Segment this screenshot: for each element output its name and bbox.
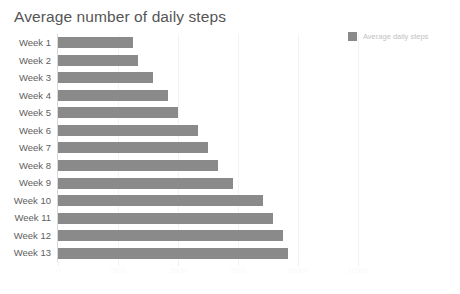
bar bbox=[58, 160, 218, 171]
bar-row: Week 4 bbox=[58, 87, 448, 105]
x-tick-label: 2500 bbox=[110, 266, 127, 275]
y-axis-category-label: Week 13 bbox=[14, 248, 51, 258]
bar-row: Week 9 bbox=[58, 174, 448, 192]
bar-row: Week 2 bbox=[58, 52, 448, 70]
y-axis-category-label: Week 1 bbox=[19, 38, 51, 48]
y-axis-category-label: Week 2 bbox=[19, 56, 51, 66]
bar bbox=[58, 142, 208, 153]
bar bbox=[58, 125, 198, 136]
y-axis-category-label: Week 8 bbox=[19, 161, 51, 171]
y-axis-category-label: Week 5 bbox=[19, 108, 51, 118]
bar bbox=[58, 107, 178, 118]
bar bbox=[58, 72, 153, 83]
bar-row: Week 7 bbox=[58, 139, 448, 157]
bar-row: Week 10 bbox=[58, 192, 448, 210]
bar bbox=[58, 195, 263, 206]
x-tick-label: 12500 bbox=[348, 266, 369, 275]
bar-row: Week 6 bbox=[58, 122, 448, 140]
chart-title: Average number of daily steps bbox=[14, 8, 226, 26]
x-tick-label: 10000 bbox=[288, 266, 309, 275]
y-axis-category-label: Week 3 bbox=[19, 73, 51, 83]
x-tick-label: 5000 bbox=[170, 266, 187, 275]
bar-row: Week 5 bbox=[58, 104, 448, 122]
bar-row: Week 13 bbox=[58, 244, 448, 262]
x-tick-label: 0 bbox=[56, 266, 60, 275]
plot-area: Week 1Week 2Week 3Week 4Week 5Week 6Week… bbox=[58, 34, 448, 262]
y-axis-category-label: Week 9 bbox=[19, 178, 51, 188]
y-axis-category-label: Week 10 bbox=[14, 196, 51, 206]
bar-row: Week 8 bbox=[58, 157, 448, 175]
bar bbox=[58, 178, 233, 189]
y-axis-category-label: Week 11 bbox=[14, 213, 51, 223]
bar-series: Week 1Week 2Week 3Week 4Week 5Week 6Week… bbox=[58, 34, 448, 262]
bar bbox=[58, 55, 138, 66]
bar-row: Week 3 bbox=[58, 69, 448, 87]
y-axis-category-label: Week 12 bbox=[14, 231, 51, 241]
bar-chart: Average number of daily steps Average da… bbox=[0, 0, 460, 294]
bar-row: Week 12 bbox=[58, 227, 448, 245]
bar bbox=[58, 213, 273, 224]
bar-row: Week 1 bbox=[58, 34, 448, 52]
x-tick-label: 7500 bbox=[230, 266, 247, 275]
y-axis-category-label: Week 7 bbox=[19, 143, 51, 153]
bar bbox=[58, 248, 288, 259]
bar bbox=[58, 90, 168, 101]
bar bbox=[58, 37, 133, 48]
x-axis-tick-labels: 02500500075001000012500 bbox=[58, 266, 448, 280]
bar bbox=[58, 230, 283, 241]
y-axis-category-label: Week 6 bbox=[19, 126, 51, 136]
bar-row: Week 11 bbox=[58, 209, 448, 227]
y-axis-category-label: Week 4 bbox=[19, 91, 51, 101]
